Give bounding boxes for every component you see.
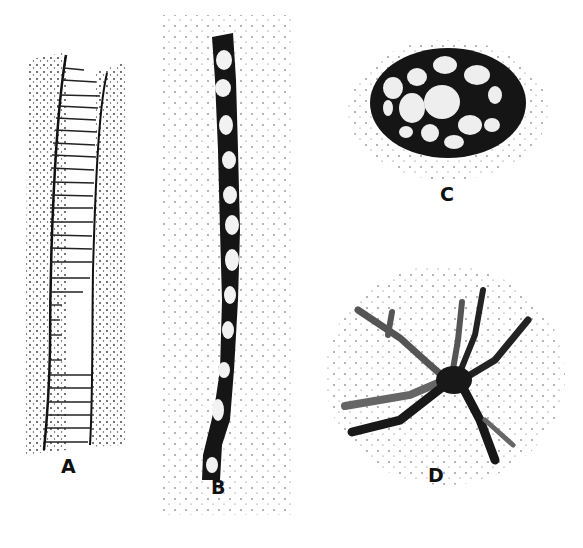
ribbed-tube-illustration — [0, 0, 160, 548]
panel-label-c: C — [440, 185, 454, 204]
panel-c: C — [330, 20, 570, 220]
panel-a: A — [0, 0, 160, 548]
branching-body-illustration — [320, 260, 570, 500]
panel-label-a: A — [61, 457, 76, 476]
panel-label-b: B — [211, 478, 225, 497]
cell-chain-illustration — [150, 0, 320, 548]
panel-label-d: D — [428, 466, 444, 485]
panel-b: B — [150, 0, 320, 548]
panel-d: D — [320, 260, 570, 500]
